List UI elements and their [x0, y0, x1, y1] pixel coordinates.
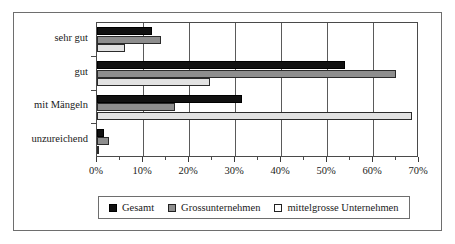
x-tick-major-30 — [234, 157, 235, 162]
bar — [97, 137, 109, 145]
x-tick-minor-45 — [303, 157, 304, 160]
bar — [97, 129, 104, 137]
x-tick-major-20 — [188, 157, 189, 162]
x-tick-minor-25 — [211, 157, 212, 160]
bar — [97, 36, 161, 44]
gridline-20 — [189, 23, 190, 156]
bar — [97, 103, 175, 111]
bar — [97, 146, 99, 154]
x-tick-major-70 — [418, 157, 419, 162]
x-tick-minor-55 — [349, 157, 350, 160]
y-axis-label-3: unzureichend — [0, 133, 88, 144]
legend-swatch-grossunternehmen-icon — [168, 204, 176, 212]
x-tick-label-40: 40% — [270, 165, 289, 176]
x-tick-label-10: 10% — [132, 165, 151, 176]
gridline-40 — [281, 23, 282, 156]
legend-swatch-gesamt-icon — [109, 204, 117, 212]
x-tick-minor-5 — [119, 157, 120, 160]
x-tick-major-60 — [372, 157, 373, 162]
y-axis-label-1: gut — [0, 66, 88, 77]
bar — [97, 70, 396, 78]
y-tick-2 — [91, 90, 96, 91]
plot-area — [96, 22, 418, 157]
legend-entry-0: Gesamt — [109, 202, 154, 213]
gridline-50 — [327, 23, 328, 156]
x-tick-major-10 — [142, 157, 143, 162]
legend-label-1: Grossunternehmen — [181, 202, 260, 213]
x-tick-major-40 — [280, 157, 281, 162]
bar — [97, 61, 345, 69]
bar — [97, 44, 125, 52]
legend-label-0: Gesamt — [122, 202, 154, 213]
chart-legend: GesamtGrossunternehmenmittelgrosse Unter… — [98, 196, 410, 219]
x-tick-label-30: 30% — [224, 165, 243, 176]
x-tick-label-0: 0% — [89, 165, 103, 176]
legend-label-2: mittelgrosse Unternehmen — [287, 202, 398, 213]
x-tick-label-60: 60% — [362, 165, 381, 176]
bar — [97, 112, 412, 120]
gridline-30 — [235, 23, 236, 156]
legend-swatch-mittelgrosse-unternehmen-icon — [274, 204, 282, 212]
legend-entry-1: Grossunternehmen — [168, 202, 260, 213]
x-tick-major-0 — [96, 157, 97, 162]
gridline-60 — [373, 23, 374, 156]
x-tick-label-20: 20% — [178, 165, 197, 176]
bar — [97, 27, 152, 35]
y-tick-3 — [91, 123, 96, 124]
y-tick-1 — [91, 56, 96, 57]
legend-entry-2: mittelgrosse Unternehmen — [274, 202, 398, 213]
x-tick-minor-35 — [257, 157, 258, 160]
y-axis-label-2: mit Mängeln — [0, 99, 88, 110]
x-tick-minor-65 — [395, 157, 396, 160]
bar — [97, 78, 210, 86]
chart-figure: sehr gutgutmit Mängelnunzureichend 0%10%… — [0, 0, 455, 244]
x-tick-major-50 — [326, 157, 327, 162]
x-tick-minor-15 — [165, 157, 166, 160]
bar — [97, 95, 242, 103]
x-tick-label-70: 70% — [408, 165, 427, 176]
y-axis-label-0: sehr gut — [0, 32, 88, 43]
x-tick-label-50: 50% — [316, 165, 335, 176]
